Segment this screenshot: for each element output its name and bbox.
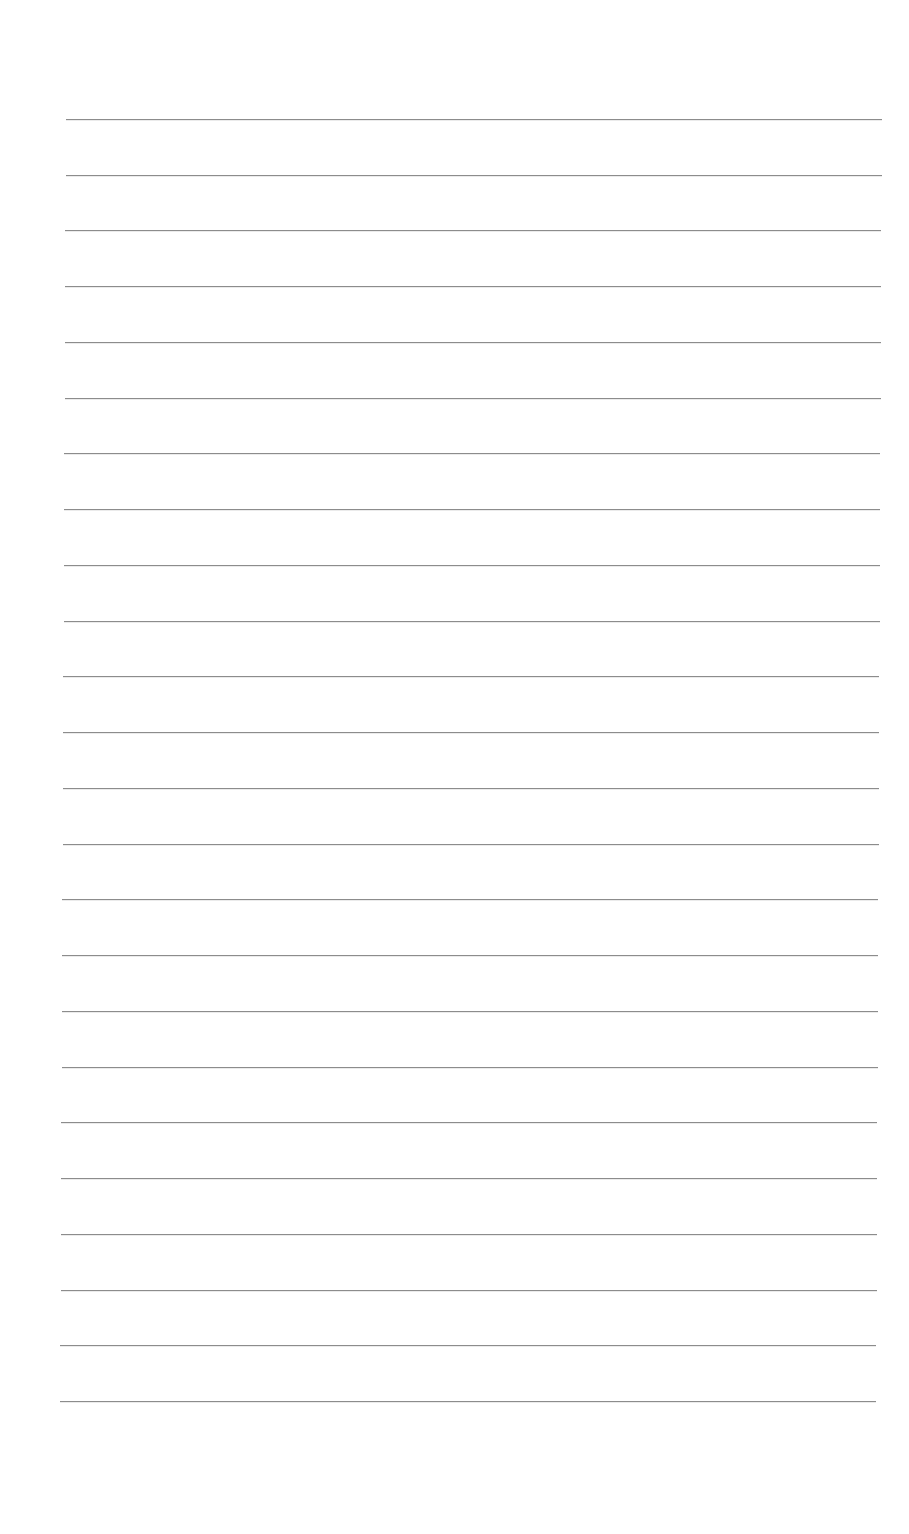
ruled-line [64, 565, 880, 566]
ruled-line [62, 899, 878, 900]
ruled-line [65, 342, 881, 343]
ruled-line [64, 621, 880, 622]
ruled-line [64, 509, 880, 510]
ruled-line [63, 844, 879, 845]
ruled-line [61, 1290, 877, 1291]
lined-paper-page [0, 0, 909, 1534]
ruled-line [65, 398, 881, 399]
ruled-line [66, 119, 882, 120]
ruled-line [61, 1234, 877, 1235]
ruled-line [61, 1122, 877, 1123]
ruled-line [61, 1178, 877, 1179]
ruled-line [63, 732, 879, 733]
ruled-line [65, 230, 881, 231]
ruled-line [63, 676, 879, 677]
ruled-line [62, 1067, 878, 1068]
ruled-line [66, 175, 882, 176]
ruled-line [64, 453, 880, 454]
ruled-line [60, 1345, 876, 1346]
ruled-line [60, 1401, 876, 1402]
ruled-line [62, 955, 878, 956]
ruled-line [62, 1011, 878, 1012]
ruled-line [65, 286, 881, 287]
ruled-line [63, 788, 879, 789]
